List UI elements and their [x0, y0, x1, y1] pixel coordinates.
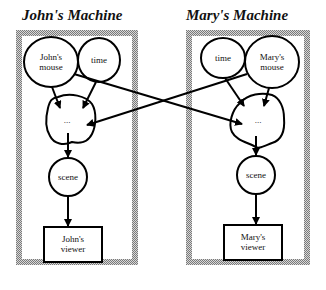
johns-machine-title: John's Machine — [22, 7, 122, 24]
marys-mouse-label: Mary's mouse — [247, 52, 297, 72]
johns-process-label: ... — [52, 115, 82, 125]
marys-time-label: time — [203, 53, 243, 63]
marys-machine-title: Mary's Machine — [186, 7, 288, 24]
johns-mouse-label: John's mouse — [26, 52, 76, 72]
marys-process-label: ... — [243, 115, 273, 125]
johns-scene-label: scene — [49, 172, 87, 182]
marys-scene-label: scene — [237, 170, 275, 180]
johns-viewer-label: John's viewer — [44, 234, 102, 254]
johns-time-label: time — [79, 55, 119, 65]
marys-viewer-label: Mary's viewer — [224, 232, 282, 252]
